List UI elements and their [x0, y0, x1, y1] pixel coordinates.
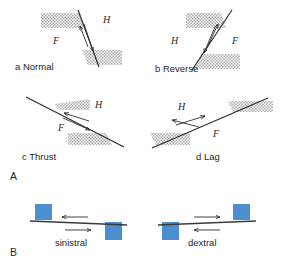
reverse-upper-block: [186, 13, 226, 28]
panel-b-letter: B: [10, 246, 17, 258]
panel-a-item-thrust: H F c Thrust: [22, 97, 124, 162]
figure-canvas: H F a Normal H F b Reverse: [0, 0, 284, 272]
thrust-caption: c Thrust: [22, 151, 57, 162]
thrust-upper-block: [54, 99, 90, 110]
panel-a-letter: A: [10, 170, 17, 182]
thrust-lower-block: [68, 133, 112, 145]
panel-a-item-normal: H F a Normal: [15, 10, 122, 72]
sinistral-far-block: [35, 204, 52, 220]
dextral-far-block: [233, 204, 250, 220]
panel-b-item-dextral: dextral: [158, 204, 256, 248]
lag-fault-plane: [152, 98, 268, 148]
thrust-footwall-label: F: [57, 122, 65, 133]
reverse-caption: b Reverse: [155, 63, 198, 74]
lag-hanging-wall-label: H: [177, 101, 186, 112]
panel-a-item-reverse: H F b Reverse: [155, 10, 240, 74]
dextral-label: dextral: [188, 237, 217, 248]
normal-lower-block: [82, 50, 122, 65]
lag-upper-block: [228, 101, 273, 112]
normal-upper-block: [41, 13, 85, 28]
thrust-hanging-wall-label: H: [94, 99, 103, 110]
reverse-slip-arrows: [204, 24, 218, 53]
normal-caption: a Normal: [15, 61, 54, 72]
sinistral-label: sinistral: [55, 237, 87, 248]
normal-footwall-label: F: [52, 35, 60, 46]
lag-slip-arrows: [172, 116, 205, 127]
lag-footwall-label: F: [212, 128, 220, 139]
panel-b-item-sinistral: sinistral: [30, 204, 127, 248]
panel-a-item-lag: H F d Lag: [150, 98, 273, 162]
normal-hanging-wall-label: H: [102, 14, 111, 25]
reverse-hanging-wall-label: H: [170, 35, 179, 46]
fault-diagram-figure: H F a Normal H F b Reverse: [0, 0, 284, 272]
lag-caption: d Lag: [196, 151, 220, 162]
reverse-footwall-label: F: [231, 35, 239, 46]
